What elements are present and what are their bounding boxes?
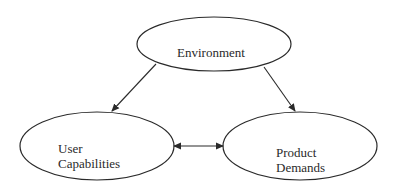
product-demands-label-line-2: Demands [276, 160, 325, 175]
edge-environment-to-product-demands [264, 67, 295, 111]
product-demands-label-line-1: Product [276, 145, 325, 160]
user-capabilities-label-line-2: Capabilities [58, 156, 120, 171]
user-capabilities-label-line-1: User [58, 141, 120, 156]
environment-label: Environment [177, 45, 245, 60]
edge-environment-to-user-capabilities [112, 64, 156, 111]
user-capabilities-label: User Capabilities [58, 141, 120, 171]
environment-label-line: Environment [177, 45, 245, 60]
product-demands-label: Product Demands [276, 145, 325, 175]
environment-node-shape [137, 17, 291, 71]
